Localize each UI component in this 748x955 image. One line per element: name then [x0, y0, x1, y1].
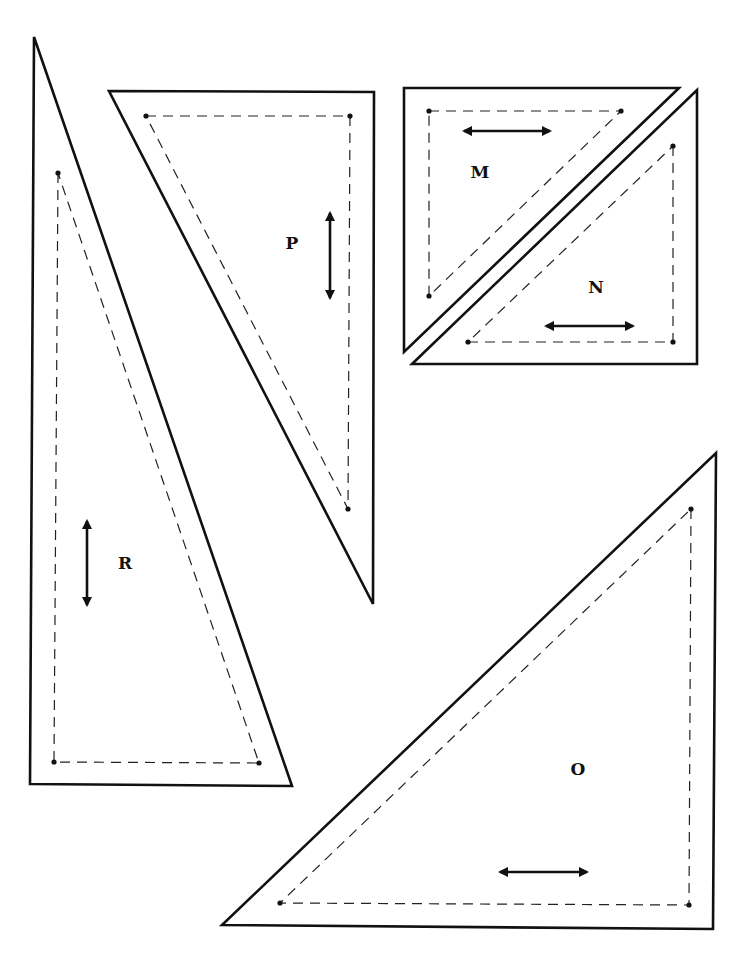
seam-corner-dot: [143, 113, 148, 118]
seam-line-o: [280, 509, 691, 905]
piece-n: N: [412, 90, 697, 364]
seam-corner-dot: [426, 108, 431, 113]
cut-line-m: [404, 88, 679, 352]
seam-corner-dot: [618, 108, 623, 113]
seam-corner-dot: [670, 339, 675, 344]
piece-m: M: [404, 88, 679, 352]
seam-corner-dot: [277, 900, 282, 905]
seam-corner-dot: [55, 170, 60, 175]
piece-label-o: O: [571, 759, 586, 779]
seam-corner-dot: [670, 143, 675, 148]
piece-o: O: [222, 453, 716, 929]
seam-corner-dots-n: [465, 143, 675, 344]
cut-line-r: [30, 37, 292, 786]
piece-label-m: M: [471, 162, 490, 182]
piece-label-p: P: [286, 233, 299, 253]
piece-p: P: [109, 91, 374, 604]
piece-label-n: N: [588, 277, 604, 297]
cut-line-o: [222, 453, 716, 929]
cut-line-p: [109, 91, 374, 604]
seam-line-n: [468, 146, 673, 342]
seam-corner-dot: [426, 293, 431, 298]
piece-r: R: [30, 37, 292, 786]
seam-corner-dot: [345, 506, 350, 511]
seam-corner-dot: [256, 760, 261, 765]
pattern-sheet: R P M N O: [0, 0, 748, 955]
seam-line-m: [429, 111, 621, 296]
cut-line-n: [412, 90, 697, 364]
seam-corner-dots-o: [277, 506, 693, 907]
seam-line-r: [54, 173, 259, 763]
seam-corner-dot: [688, 506, 693, 511]
seam-corner-dot: [465, 339, 470, 344]
seam-corner-dot: [51, 759, 56, 764]
piece-label-r: R: [118, 553, 133, 573]
seam-corner-dot: [686, 902, 691, 907]
seam-corner-dot: [347, 113, 352, 118]
